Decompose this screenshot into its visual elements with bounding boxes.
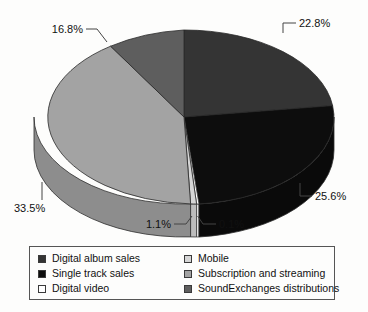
label-mobile: 1.1% <box>146 218 171 230</box>
chart-legend: Digital album sales Single track sales D… <box>29 246 335 300</box>
label-soundexchanges-distributions: 16.8% <box>52 23 83 35</box>
slice-digital-album-sales <box>184 30 333 117</box>
leader-line-soundexchange <box>86 29 107 42</box>
legend-label-mobile: Mobile <box>198 251 229 266</box>
legend-swatch-digital-album-sales <box>38 255 46 263</box>
legend-item-soundexchanges-distributions[interactable]: SoundExchanges distributions <box>184 281 334 296</box>
legend-item-subscription-and-streaming[interactable]: Subscription and streaming <box>184 266 334 281</box>
label-digital-album-sales: 22.8% <box>299 17 330 29</box>
legend-column-left: Digital album sales Single track sales D… <box>38 251 184 295</box>
legend-swatch-subscription-and-streaming <box>184 270 192 278</box>
legend-column-right: Mobile Subscription and streaming SoundE… <box>184 251 334 295</box>
legend-label-soundexchanges-distributions: SoundExchanges distributions <box>198 281 339 296</box>
pie-top-face <box>48 30 334 204</box>
legend-label-subscription-and-streaming: Subscription and streaming <box>198 266 325 281</box>
legend-label-digital-album-sales: Digital album sales <box>52 251 140 266</box>
label-single-track-sales: 25.6% <box>315 190 346 202</box>
legend-swatch-digital-video <box>38 285 46 293</box>
legend-label-digital-video: Digital video <box>52 281 109 296</box>
legend-item-single-track-sales[interactable]: Single track sales <box>38 266 184 281</box>
legend-item-digital-video[interactable]: Digital video <box>38 281 184 296</box>
leader-line-album <box>283 23 296 33</box>
legend-item-mobile[interactable]: Mobile <box>184 251 334 266</box>
legend-label-single-track-sales: Single track sales <box>52 266 134 281</box>
legend-swatch-soundexchanges-distributions <box>184 285 192 293</box>
label-digital-video: 0.1% <box>219 218 244 230</box>
label-subscription-streaming: 33.5% <box>14 202 45 214</box>
legend-item-digital-album-sales[interactable]: Digital album sales <box>38 251 184 266</box>
side-mobile <box>191 204 197 237</box>
legend-swatch-mobile <box>184 255 192 263</box>
legend-swatch-single-track-sales <box>38 270 46 278</box>
